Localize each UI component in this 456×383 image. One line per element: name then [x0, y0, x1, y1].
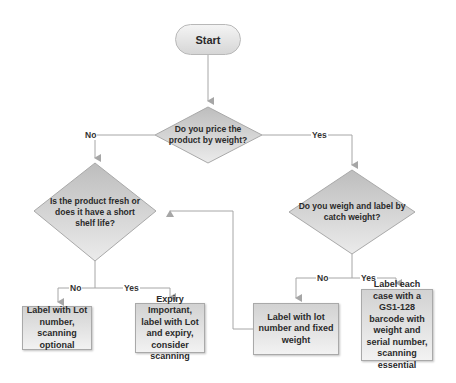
edge-label-fresh-no: No	[69, 283, 82, 293]
start-terminator: Start	[175, 24, 241, 55]
decision-price-label: Do you price the product by weight?	[168, 120, 248, 150]
result-fixed-weight: Label with lot number and fixed weight	[253, 303, 339, 355]
edge-label-fresh-yes: Yes	[123, 283, 140, 293]
result-lot-optional: Label with Lot number, scanning optional	[22, 306, 92, 350]
result-expiry: Expiry Important, label with Lot and exp…	[135, 303, 205, 353]
edge-label-price-yes: Yes	[311, 130, 328, 140]
decision-fresh-label: Is the product fresh or does it have a s…	[46, 195, 144, 229]
result-gs1-128: Label each case with a GS1-128 barcode w…	[361, 289, 433, 361]
decision-catch-label: Do you weigh and label by catch weight?	[298, 198, 406, 226]
edge-label-price-no: No	[84, 130, 97, 140]
edge-label-catch-no: No	[316, 273, 329, 283]
